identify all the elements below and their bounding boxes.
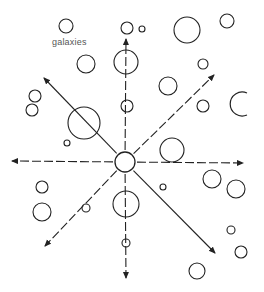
arrow-up [125, 39, 126, 150]
galaxies-label: galaxies [52, 37, 87, 47]
galaxy-circle [198, 59, 208, 69]
arrow-left [12, 161, 113, 162]
arrow-up-left [44, 78, 117, 153]
galaxy-circle [174, 17, 200, 43]
central-galaxy [115, 152, 135, 172]
arrow-down [125, 174, 126, 278]
galaxy-circles [26, 14, 247, 279]
galaxy-circle [121, 22, 133, 34]
galaxy-circle [139, 26, 145, 32]
expanding-universe-diagram [0, 0, 264, 292]
galaxy-circle [159, 77, 177, 95]
galaxy-circle [197, 100, 209, 112]
galaxy-circle [235, 246, 247, 258]
arrow-down-right [133, 171, 215, 253]
galaxy-circle [189, 263, 205, 279]
galaxy-circle [220, 14, 234, 28]
galaxy-circle [68, 107, 100, 139]
galaxy-circle [26, 104, 38, 116]
partial-galaxy-arc [230, 92, 247, 116]
galaxy-circle [113, 191, 139, 217]
galaxy-circle [36, 181, 48, 193]
arrow-down-left [45, 171, 117, 246]
galaxy-circle [29, 90, 41, 102]
galaxy-circle [160, 184, 166, 190]
galaxy-circle [203, 170, 221, 188]
galaxy-circle [64, 140, 70, 146]
galaxy-circle [33, 203, 51, 221]
galaxy-circle [227, 226, 235, 234]
arrow-up-right [134, 75, 214, 154]
galaxy-circle [227, 180, 245, 198]
galaxy-circle [82, 204, 90, 212]
galaxy-circle [59, 19, 73, 33]
galaxy-circle [77, 55, 95, 73]
arrow-right [137, 162, 243, 163]
galaxy-circle [160, 138, 184, 162]
galaxy-circle [121, 100, 133, 112]
